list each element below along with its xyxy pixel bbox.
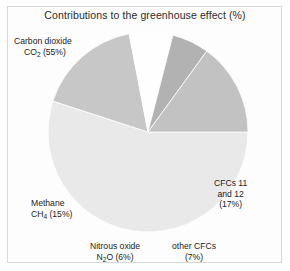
slice-label-carbon-dioxide-line2: CO2 (55%) (14, 47, 72, 59)
slice-label-other-cfcs-line1: other CFCs (172, 241, 216, 252)
slice-label-cfcs-11-and-12: CFCs 11 and 12 (17%) (214, 178, 247, 210)
slice-label-carbon-dioxide-line1: Carbon dioxide (14, 36, 72, 47)
slice-label-nitrous-oxide-line2: N2O (6%) (90, 252, 140, 264)
slice-label-other-cfcs: other CFCs (7%) (172, 241, 216, 262)
greenhouse-pie-figure: Contributions to the greenhouse effect (… (0, 0, 290, 271)
slice-label-cfcs-line2: and 12 (214, 189, 247, 200)
slice-label-nitrous-oxide-line1: Nitrous oxide (90, 241, 140, 252)
slice-label-nitrous-oxide: Nitrous oxide N2O (6%) (90, 241, 140, 263)
slice-label-methane: Methane CH4 (15%) (31, 198, 72, 220)
slice-label-cfcs-line1: CFCs 11 (214, 178, 247, 189)
slice-label-methane-line2: CH4 (15%) (31, 209, 72, 221)
slice-label-cfcs-line3: (17%) (214, 199, 247, 210)
slice-label-carbon-dioxide: Carbon dioxide CO2 (55%) (14, 36, 72, 58)
slice-label-methane-line1: Methane (31, 198, 72, 209)
slice-label-other-cfcs-line2: (7%) (172, 252, 216, 263)
